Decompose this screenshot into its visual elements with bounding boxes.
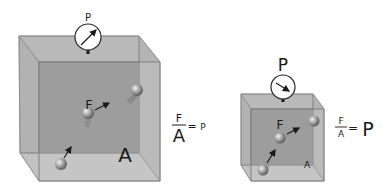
right-container: F A P — [241, 55, 324, 181]
right-equation: F A = P — [335, 116, 374, 140]
right-area-label: A — [304, 160, 311, 170]
left-gauge-dial — [75, 24, 101, 50]
right-eq-equals: = — [348, 121, 358, 135]
left-eq-equals: = — [187, 120, 196, 133]
right-force-label: F — [277, 118, 284, 132]
left-equation: F A = P — [172, 112, 206, 146]
left-container: F A P — [19, 12, 160, 181]
left-eq-numerator: F — [176, 112, 182, 125]
right-molecule-1 — [309, 116, 320, 127]
left-area-label: A — [118, 143, 132, 167]
right-molecule-3 — [258, 165, 269, 176]
right-molecule-2 — [275, 133, 286, 144]
pressure-diagram: F A P F A = P — [0, 0, 388, 195]
left-eq-result: P — [200, 122, 206, 132]
left-molecule-1 — [131, 84, 143, 96]
right-eq-numerator: F — [338, 116, 343, 126]
right-eq-denominator: A — [338, 129, 345, 139]
left-eq-denominator: A — [173, 125, 186, 146]
right-eq-result: P — [362, 118, 373, 140]
right-pressure-gauge: P — [271, 55, 295, 102]
left-force-label: F — [85, 97, 92, 112]
right-gauge-label: P — [278, 55, 288, 75]
left-gauge-label: P — [85, 12, 91, 23]
left-molecule-3 — [55, 158, 67, 170]
